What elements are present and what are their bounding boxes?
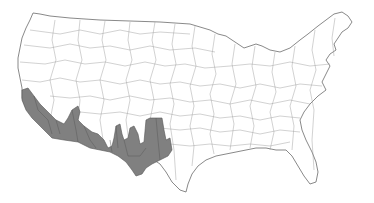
us-map-svg [0,0,374,203]
us-map [0,0,374,203]
us-outline [18,12,352,192]
